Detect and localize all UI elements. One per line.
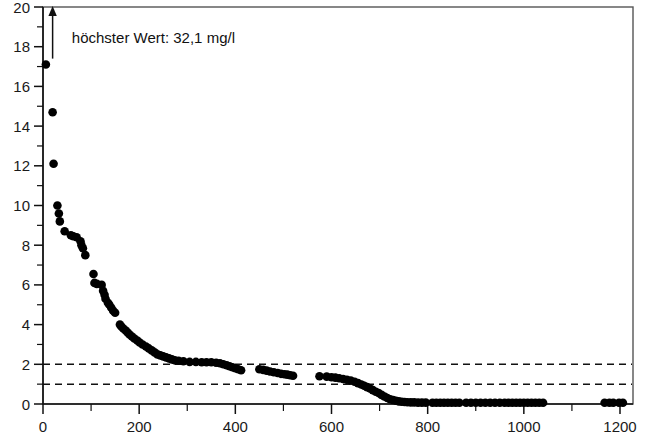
- chart-container: 02468101214161820 020040060080010001200 …: [0, 0, 646, 448]
- scatter-chart: 02468101214161820 020040060080010001200 …: [0, 0, 646, 448]
- x-tick-label: 0: [39, 418, 47, 435]
- y-tick-label: 4: [22, 316, 30, 333]
- data-point-series: [42, 60, 628, 407]
- data-point: [237, 366, 246, 375]
- data-point: [48, 108, 57, 117]
- data-point: [49, 160, 58, 169]
- y-tick-label: 0: [22, 396, 30, 413]
- x-tick-label: 600: [319, 418, 344, 435]
- data-point: [89, 270, 98, 279]
- data-point: [111, 308, 120, 317]
- y-tick-label: 8: [22, 237, 30, 254]
- y-axis-ticks: [34, 7, 43, 404]
- y-tick-label: 6: [22, 276, 30, 293]
- x-tick-label: 1000: [507, 418, 540, 435]
- data-point: [56, 217, 65, 226]
- x-tick-label: 1200: [603, 418, 636, 435]
- y-tick-label: 20: [13, 0, 30, 16]
- data-point: [619, 399, 628, 408]
- plot-frame: [43, 7, 633, 404]
- y-tick-label: 12: [13, 157, 30, 174]
- data-point: [55, 209, 64, 218]
- y-axis-tick-labels: 02468101214161820: [13, 0, 30, 413]
- max-value-annotation-text: höchster Wert: 32,1 mg/l: [72, 29, 235, 46]
- y-tick-label: 16: [13, 78, 30, 95]
- x-tick-label: 800: [415, 418, 440, 435]
- data-point: [53, 201, 62, 210]
- data-point: [81, 251, 90, 260]
- axes: [43, 7, 633, 404]
- x-tick-label: 400: [223, 418, 248, 435]
- data-point: [42, 60, 51, 69]
- x-axis-tick-labels: 020040060080010001200: [39, 418, 637, 435]
- data-point: [289, 372, 298, 381]
- y-tick-label: 2: [22, 356, 30, 373]
- y-tick-label: 10: [13, 197, 30, 214]
- y-tick-label: 18: [13, 38, 30, 55]
- y-tick-label: 14: [13, 118, 30, 135]
- chart-annotations: höchster Wert: 32,1 mg/l: [48, 6, 235, 59]
- data-point: [539, 399, 548, 408]
- x-tick-label: 200: [127, 418, 152, 435]
